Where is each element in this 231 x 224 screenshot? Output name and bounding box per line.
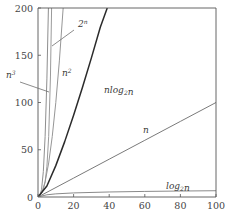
label-n-cubed-leader [20,82,49,92]
y-tick-label: 150 [15,50,33,61]
x-tick-label: 40 [103,200,115,211]
growth-rate-chart: 020406080100050100150200 2nn3n2nlog2nnlo… [0,0,231,224]
x-tick-label: 80 [174,200,186,211]
label-n: n [143,125,149,135]
curve-n-log2-n [38,8,107,197]
y-tick-label: 0 [27,192,33,203]
x-tick-label: 100 [207,200,225,211]
y-tick-label: 200 [15,3,33,14]
x-tick-label: 20 [68,200,80,211]
label-n-log-n: nlog2n [104,85,134,97]
curve-n-2 [38,8,63,197]
x-tick-label: 60 [139,200,151,211]
label-2-to-the-n-leader [52,30,74,46]
label-n-squared: n2 [62,67,72,78]
curve-2-n [38,8,52,196]
label-n-cubed: n3 [6,69,16,80]
x-tick-label: 0 [35,200,41,211]
chart-canvas: 020406080100050100150200 2nn3n2nlog2nnlo… [0,0,231,224]
curve-labels-layer: 2nn3n2nlog2nnlog2n [6,18,190,194]
label-2-to-the-n: 2n [77,18,88,29]
y-tick-label: 50 [21,144,33,155]
y-tick-label: 100 [15,97,33,108]
